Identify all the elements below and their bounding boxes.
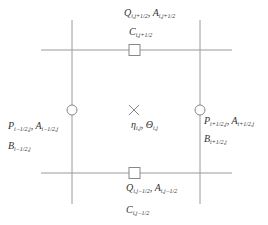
square-icon [129, 45, 140, 56]
square-icon [129, 168, 140, 179]
cross-icon [129, 105, 139, 115]
bottom-flux-label: Qi,j−1/2, Ai,j−1/2 [126, 183, 177, 194]
top-c-label: Ci,j+1/2 [129, 27, 152, 38]
top-flux-label: Qi,j+1/2, Ai,j+1/2 [124, 8, 175, 19]
right-b-label: Bi+1/2,j [204, 134, 227, 145]
circle-icon [67, 105, 77, 115]
right-flux-label: Pi+1/2,j, Ai+1/2,j [204, 116, 254, 127]
left-flux-label: Pi−1/2,j, Ai−1/2,j [8, 121, 58, 132]
left-b-label: Bi−1/2,j [8, 141, 31, 152]
center-label: ηi,j, Θi,j [131, 120, 158, 131]
circle-icon [195, 105, 205, 115]
bottom-c-label: Ci,j−1/2 [126, 205, 149, 216]
